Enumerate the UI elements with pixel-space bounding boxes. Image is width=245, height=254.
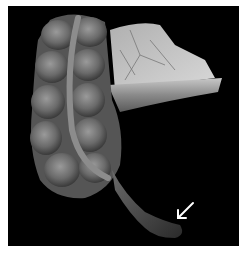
appendix	[112, 170, 182, 238]
arrow-pointer-icon	[178, 203, 193, 218]
cecum-illustration	[0, 0, 245, 254]
